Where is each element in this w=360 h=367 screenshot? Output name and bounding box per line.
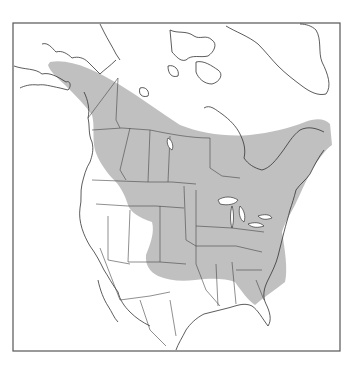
range-map — [0, 0, 360, 367]
